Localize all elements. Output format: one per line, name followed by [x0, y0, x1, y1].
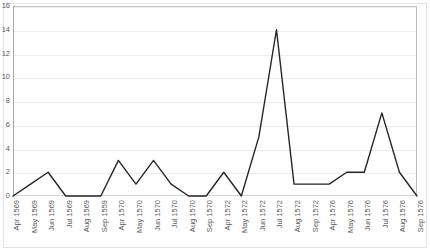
x-axis-tick-label: Sep 1559 [101, 198, 109, 250]
x-axis-tick-label: Jul 1570 [171, 198, 179, 250]
x-axis-tick-label: Sep 1576 [417, 198, 425, 250]
y-axis-tick-label: 8 [6, 97, 10, 105]
y-axis-tick-label: 12 [2, 50, 10, 58]
x-axis-tick-labels: Apr 1569May 1569Jun 1569Jul 1569Aug 1569… [13, 198, 417, 250]
x-axis-tick-label: Jun 1570 [154, 198, 162, 250]
y-axis-tick-label: 2 [6, 169, 10, 177]
x-axis-tick-label: Apr 1576 [329, 198, 337, 250]
chart-container: 0246810121416 Apr 1569May 1569Jun 1569Ju… [0, 0, 430, 251]
x-axis-tick-label: May 1576 [347, 198, 355, 250]
x-axis-tick-label: Aug 1572 [294, 198, 302, 250]
series-polyline [13, 30, 417, 196]
x-axis-tick-label: Aug 1569 [83, 198, 91, 250]
y-axis-tick-label: 4 [6, 145, 10, 153]
y-axis-tick-label: 14 [2, 26, 10, 34]
y-axis-tick-label: 6 [6, 121, 10, 129]
x-axis-tick-label: Aug 1570 [189, 198, 197, 250]
x-axis-tick-label: May 1572 [241, 198, 249, 250]
x-axis-tick-label: Jul 1569 [66, 198, 74, 250]
x-axis-tick-label: Jun 1576 [364, 198, 372, 250]
y-axis-tick-label: 10 [2, 74, 10, 82]
x-axis-tick-label: Jun 1569 [48, 198, 56, 250]
x-axis-tick-label: May 1569 [31, 198, 39, 250]
x-axis-tick-label: Apr 1569 [13, 198, 21, 250]
x-axis-tick-label: Jul 1576 [382, 198, 390, 250]
x-axis-tick-label: Sep 1572 [312, 198, 320, 250]
x-axis-tick-label: Jul 1572 [276, 198, 284, 250]
line-series [13, 6, 417, 196]
y-axis-tick-label: 16 [2, 2, 10, 10]
x-axis-tick-label: Aug 1576 [399, 198, 407, 250]
x-axis-tick-label: May 1570 [136, 198, 144, 250]
x-axis-tick-label: Apr 1572 [224, 198, 232, 250]
x-axis-tick-label: Jun 1572 [259, 198, 267, 250]
x-axis-tick-label: Sep 1570 [206, 198, 214, 250]
x-axis-tick-label: Apr 1570 [118, 198, 126, 250]
y-axis-tick-label: 0 [6, 192, 10, 200]
